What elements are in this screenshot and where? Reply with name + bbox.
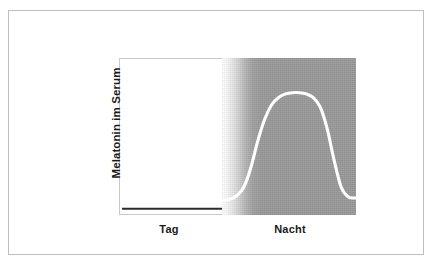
x-axis-label-tag: Tag — [129, 222, 209, 236]
night-melatonin-series — [222, 58, 356, 215]
night-melatonin-path — [223, 93, 355, 201]
day-panel — [119, 58, 223, 215]
figure-root: Melatonin im Serum Tag Nacht — [0, 0, 436, 268]
night-panel — [222, 58, 356, 215]
x-axis-label-nacht: Nacht — [250, 222, 330, 236]
plot-area — [119, 58, 356, 215]
figure-outer-frame: Melatonin im Serum Tag Nacht — [8, 10, 424, 255]
y-axis-label: Melatonin im Serum — [108, 43, 124, 203]
day-baseline-series — [120, 59, 224, 216]
